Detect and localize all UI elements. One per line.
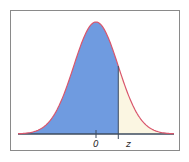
normal-curve-chart bbox=[0, 0, 189, 162]
tick-label-zero: 0 bbox=[93, 139, 99, 149]
shaded-area-left-of-z bbox=[18, 22, 118, 134]
tick-label-z: z bbox=[126, 139, 131, 149]
